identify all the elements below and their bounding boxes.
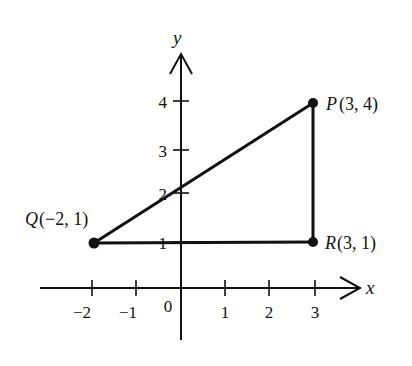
x-tick-label: −2 xyxy=(73,303,91,322)
point-P xyxy=(308,98,318,108)
segment-QP xyxy=(94,103,313,243)
x-axis: x xyxy=(40,277,375,299)
x-tick-label: 2 xyxy=(265,303,274,322)
x-tick-label: −1 xyxy=(119,303,137,322)
y-tick-label: 3 xyxy=(159,142,168,161)
x-tick-labels: −2 −1 1 2 3 0 xyxy=(73,297,319,322)
segment-QR xyxy=(94,242,313,243)
point-Q xyxy=(89,238,100,249)
origin-label: 0 xyxy=(164,297,173,316)
point-R xyxy=(308,237,318,247)
x-axis-label: x xyxy=(365,277,375,298)
y-tick-labels: 1 2 3 4 xyxy=(159,93,168,253)
triangle-PQR xyxy=(94,103,313,243)
coordinate-diagram: x y −2 −1 1 2 3 0 1 2 3 4 xyxy=(0,0,412,366)
x-tick-label: 3 xyxy=(311,303,320,322)
point-Q-label: Q(−2, 1) xyxy=(25,209,88,230)
y-axis-label: y xyxy=(171,27,182,48)
x-tick-label: 1 xyxy=(221,303,230,322)
y-tick-label: 4 xyxy=(159,93,168,112)
point-R-label: R(3, 1) xyxy=(324,233,376,254)
point-P-label: P(3, 4) xyxy=(325,94,378,115)
